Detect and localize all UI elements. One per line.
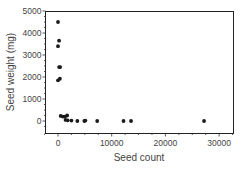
data-point	[75, 119, 79, 123]
data-point	[95, 119, 99, 123]
data-point	[83, 119, 87, 123]
data-point	[122, 119, 126, 123]
y-tick-label: 3000	[23, 50, 42, 60]
data-point	[57, 39, 61, 43]
y-axis-ticks: 010002000300040005000	[23, 6, 46, 127]
data-point	[65, 114, 69, 118]
x-tick-label: 30000	[207, 138, 231, 148]
plot-frame	[46, 12, 234, 134]
data-point	[56, 20, 60, 24]
scatter-chart: 010002000300040005000 0100002000030000 S…	[0, 0, 242, 177]
x-axis-ticks: 0100002000030000	[45, 134, 233, 148]
data-point	[58, 77, 62, 81]
data-point	[66, 118, 70, 122]
y-tick-label: 1000	[23, 94, 42, 104]
y-tick-label: 0	[37, 116, 42, 126]
data-point	[202, 119, 206, 123]
data-point	[129, 119, 133, 123]
data-points	[56, 20, 206, 123]
x-axis-label: Seed count	[114, 152, 165, 163]
data-point	[70, 119, 74, 123]
x-tick-label: 0	[56, 138, 61, 148]
y-tick-label: 4000	[23, 28, 42, 38]
data-point	[56, 44, 60, 48]
data-point	[58, 65, 62, 69]
x-tick-label: 10000	[100, 138, 124, 148]
y-tick-label: 5000	[23, 6, 42, 16]
x-tick-label: 20000	[154, 138, 178, 148]
y-axis-label: Seed weight (mg)	[5, 33, 16, 111]
y-tick-label: 2000	[23, 72, 42, 82]
